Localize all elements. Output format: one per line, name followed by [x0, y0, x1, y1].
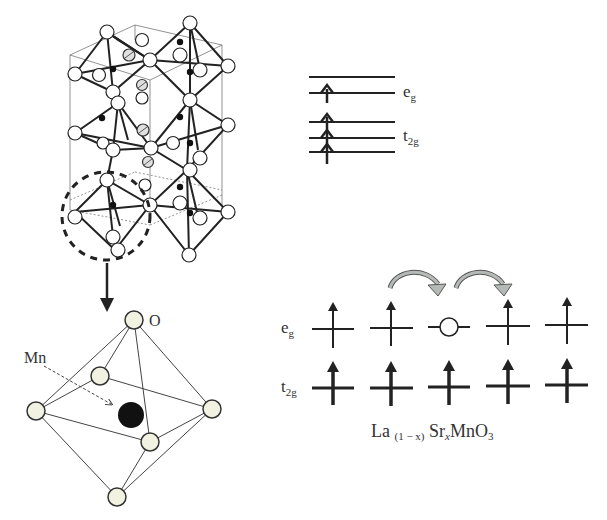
oxygen-atom-top — [125, 311, 143, 329]
hop-t2g-label: t2g — [281, 377, 297, 398]
double-exchange-diagram: eg t2g — [281, 272, 588, 444]
hop-arrow-1 — [390, 272, 446, 296]
oxygen-atom-bottom — [108, 488, 126, 506]
eg-label: eg — [403, 82, 417, 103]
down-arrow — [100, 263, 114, 312]
site-2 — [370, 301, 413, 406]
oxygen-atom-back — [91, 367, 109, 385]
label-O: O — [149, 312, 161, 329]
octahedra-left — [75, 32, 151, 250]
oxygen-atom-front — [141, 433, 159, 451]
site-1 — [312, 302, 354, 405]
site-4 — [486, 299, 530, 404]
oxygen-atoms — [68, 16, 235, 262]
hop-arrow-2 — [456, 272, 512, 296]
crystal-structure — [62, 16, 235, 262]
label-Mn: Mn — [24, 349, 46, 366]
site-5 — [545, 297, 588, 403]
hop-eg-label: eg — [281, 318, 295, 339]
site-3-hole — [428, 318, 470, 405]
octahedra-right — [150, 23, 228, 255]
mn-atom — [118, 402, 144, 428]
figure-canvas: O Mn eg t2g eg t2g — [0, 0, 607, 520]
t2g-label: t2g — [403, 126, 419, 147]
oxygen-atom-right — [203, 400, 221, 418]
hole-icon — [440, 318, 458, 336]
mno6-octahedron: O Mn — [24, 311, 221, 506]
energy-level-diagram: eg t2g — [309, 77, 419, 164]
formula-label: La (1 − x) SrxMnO3 — [371, 421, 494, 444]
oxygen-atom-left — [27, 402, 45, 420]
